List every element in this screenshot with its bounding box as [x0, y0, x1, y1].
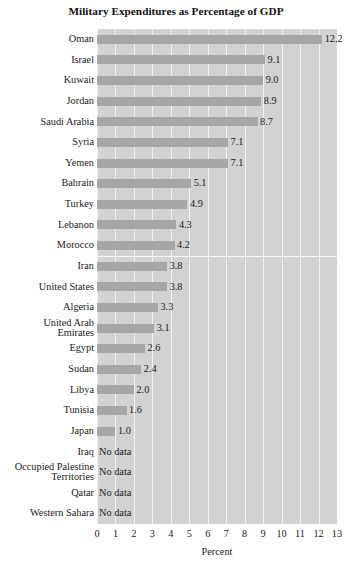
bar-value-label: 3.1: [157, 323, 170, 333]
no-data-label: No data: [99, 447, 131, 457]
category-label: Occupied Palestine Territories: [0, 462, 94, 483]
bar: [97, 97, 261, 106]
category-label: Morocco: [0, 240, 94, 251]
category-label: Bahrain: [0, 178, 94, 189]
bar-value-label: 7.1: [231, 158, 244, 168]
bar-value-label: 2.6: [148, 343, 161, 353]
x-tick-5: 5: [187, 528, 192, 539]
category-label: Tunisia: [0, 405, 94, 416]
category-label: Lebanon: [0, 220, 94, 231]
category-label: Oman: [0, 34, 94, 45]
bar-value-label: 9.1: [268, 55, 281, 65]
category-label: Egypt: [0, 343, 94, 354]
bar: [97, 365, 141, 374]
bar: [97, 55, 265, 64]
bar: [97, 117, 258, 126]
category-label: Turkey: [0, 199, 94, 210]
x-tick-11: 11: [295, 528, 305, 539]
x-tick-1: 1: [113, 528, 118, 539]
x-tick-3: 3: [150, 528, 155, 539]
category-label: Sudan: [0, 364, 94, 375]
no-data-label: No data: [99, 488, 131, 498]
chart-container: Military Expenditures as Percentage of G…: [0, 0, 352, 569]
group-separator: [97, 256, 337, 257]
bar: [97, 303, 158, 312]
category-label: Syria: [0, 137, 94, 148]
bar-value-label: 8.9: [264, 96, 277, 106]
chart-title: Military Expenditures as Percentage of G…: [0, 5, 352, 17]
category-label: Iraq: [0, 447, 94, 458]
bar-value-label: 8.7: [260, 117, 273, 127]
bar-value-label: 3.8: [170, 282, 183, 292]
bar-value-label: 5.1: [194, 178, 207, 188]
category-label: Israel: [0, 55, 94, 66]
bar: [97, 324, 154, 333]
x-tick-4: 4: [168, 528, 173, 539]
bar-value-label: 4.3: [179, 220, 192, 230]
category-label: Iran: [0, 261, 94, 272]
gridline-12: [319, 29, 320, 524]
bar: [97, 159, 228, 168]
category-label: Algeria: [0, 302, 94, 313]
bar-value-label: 1.0: [118, 426, 131, 436]
bar-value-label: 12.2: [325, 34, 343, 44]
x-tick-7: 7: [224, 528, 229, 539]
bar: [97, 179, 191, 188]
x-tick-0: 0: [94, 528, 99, 539]
bar: [97, 200, 187, 209]
category-label: Western Sahara: [0, 508, 94, 519]
category-label: Qatar: [0, 488, 94, 499]
x-axis-tick-labels: 012345678910111213: [0, 528, 352, 542]
bar: [97, 385, 134, 394]
x-tick-10: 10: [276, 528, 286, 539]
x-tick-12: 12: [313, 528, 323, 539]
bar-value-label: 2.4: [144, 364, 157, 374]
x-tick-6: 6: [205, 528, 210, 539]
bar: [97, 282, 167, 291]
no-data-label: No data: [99, 467, 131, 477]
x-tick-13: 13: [332, 528, 342, 539]
bar: [97, 76, 263, 85]
bar: [97, 427, 115, 436]
category-label: Yemen: [0, 158, 94, 169]
bar: [97, 241, 175, 250]
bar: [97, 262, 167, 271]
gridline-11: [300, 29, 301, 524]
x-tick-9: 9: [261, 528, 266, 539]
category-label: Saudi Arabia: [0, 117, 94, 128]
no-data-label: No data: [99, 508, 131, 518]
x-tick-8: 8: [242, 528, 247, 539]
bar: [97, 344, 145, 353]
category-label: Libya: [0, 385, 94, 396]
bar-value-label: 7.1: [231, 137, 244, 147]
bar-value-label: 3.8: [170, 261, 183, 271]
bar: [97, 406, 127, 415]
x-tick-2: 2: [131, 528, 136, 539]
category-label: United States: [0, 282, 94, 293]
bar-value-label: 2.0: [136, 385, 149, 395]
bar-value-label: 3.3: [160, 302, 173, 312]
category-label: Japan: [0, 426, 94, 437]
bar-value-label: 9.0: [266, 75, 279, 85]
gridline-10: [282, 29, 283, 524]
bar: [97, 138, 228, 147]
x-axis-title: Percent: [97, 546, 337, 557]
bar-value-label: 4.2: [177, 240, 190, 250]
bar: [97, 35, 322, 44]
bar: [97, 220, 176, 229]
category-label: United Arab Emirates: [0, 318, 94, 339]
category-label: Kuwait: [0, 75, 94, 86]
category-label: Jordan: [0, 96, 94, 107]
bar-value-label: 1.6: [129, 405, 142, 415]
bar-value-label: 4.9: [190, 199, 203, 209]
